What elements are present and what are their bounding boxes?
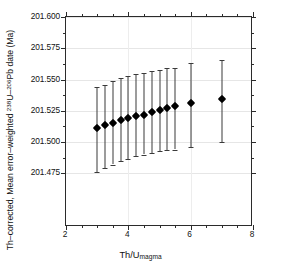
x-axis-tick-minor xyxy=(160,225,161,228)
x-tick-label: 2 xyxy=(63,229,68,239)
x-axis-tick-minor xyxy=(206,225,207,228)
error-bar-cap xyxy=(149,71,154,72)
figure-panel: Th–corrected, Mean error–weighted 238U–2… xyxy=(0,0,281,279)
y-axis-tick-minor xyxy=(251,126,254,127)
x-axis-tick-minor xyxy=(160,14,161,17)
x-axis-tick-major xyxy=(253,12,254,17)
x-axis-title-base: Th/U xyxy=(119,250,139,260)
y-axis-tick-minor xyxy=(251,64,254,65)
data-layer xyxy=(66,17,251,225)
x-tick-label: 8 xyxy=(250,229,255,239)
x-axis-tick-minor xyxy=(144,14,145,17)
x-axis-tick-minor xyxy=(144,225,145,228)
x-axis-title-sub: magma xyxy=(140,253,162,260)
error-bar-cap xyxy=(157,70,162,71)
y-axis-tick-major xyxy=(61,80,66,81)
y-axis-tick-major xyxy=(61,142,66,143)
error-bar-cap xyxy=(165,150,170,151)
x-axis-tick-minor xyxy=(222,14,223,17)
y-axis-tick-minor xyxy=(63,158,66,159)
x-axis-tick-minor xyxy=(82,14,83,17)
y-axis-tick-major xyxy=(251,80,256,81)
error-bar-cap xyxy=(188,63,193,64)
y-axis-tick-minor xyxy=(63,95,66,96)
error-bar-cap xyxy=(118,78,123,79)
data-point-marker xyxy=(218,95,226,103)
x-axis-tick-minor xyxy=(97,14,98,17)
x-axis-tick-minor xyxy=(97,225,98,228)
y-axis-tick-minor xyxy=(63,64,66,65)
x-axis-tick-minor xyxy=(175,225,176,228)
error-bar-cap xyxy=(165,68,170,69)
x-axis-title: Th/Umagma xyxy=(0,250,281,260)
data-point-marker xyxy=(171,102,179,110)
data-point-marker xyxy=(132,112,140,120)
x-tick-label: 6 xyxy=(187,229,192,239)
y-tick-label: 201.575 xyxy=(31,42,60,52)
y-axis-tick-major xyxy=(251,142,256,143)
y-axis-tick-minor xyxy=(63,126,66,127)
error-bar-cap xyxy=(134,74,139,75)
error-bar-cap xyxy=(110,81,115,82)
x-axis-tick-minor xyxy=(175,14,176,17)
x-tick-label-group: 2468 xyxy=(65,229,252,243)
x-axis-tick-minor xyxy=(237,14,238,17)
error-bar-cap xyxy=(95,172,100,173)
x-axis-tick-minor xyxy=(222,225,223,228)
y-axis-tick-major xyxy=(251,111,256,112)
error-bar-cap xyxy=(149,153,154,154)
y-axis-tick-major xyxy=(61,48,66,49)
y-axis-tick-minor xyxy=(251,33,254,34)
y-tick-label: 201.475 xyxy=(31,167,60,177)
x-axis-tick-minor xyxy=(113,225,114,228)
error-bar-cap xyxy=(219,142,224,143)
error-bar-cap xyxy=(110,165,115,166)
error-bar-cap xyxy=(173,150,178,151)
error-bar-cap xyxy=(126,76,131,77)
y-tick-label: 201.600 xyxy=(31,11,60,21)
data-point-marker xyxy=(147,108,155,116)
error-bar-cap xyxy=(173,68,178,69)
error-bar-cap xyxy=(126,159,131,160)
y-axis-tick-major xyxy=(251,173,256,174)
error-bar-cap xyxy=(134,156,139,157)
y-axis-tick-minor xyxy=(251,95,254,96)
y-axis-tick-major xyxy=(251,48,256,49)
x-axis-tick-major xyxy=(191,12,192,17)
y-axis-tick-minor xyxy=(63,33,66,34)
y-axis-tick-major xyxy=(61,111,66,112)
y-axis-tick-major xyxy=(251,17,256,18)
y-tick-label: 201.500 xyxy=(31,136,60,146)
error-bar-cap xyxy=(118,161,123,162)
error-bar-cap xyxy=(102,85,107,86)
y-tick-label: 201.550 xyxy=(31,74,60,84)
error-bar-cap xyxy=(188,147,193,148)
error-bar-cap xyxy=(141,155,146,156)
y-axis-tick-major xyxy=(61,173,66,174)
x-axis-tick-major xyxy=(66,12,67,17)
x-tick-label: 4 xyxy=(125,229,130,239)
x-axis-tick-minor xyxy=(206,14,207,17)
y-tick-label: 201.525 xyxy=(31,105,60,115)
x-axis-tick-major xyxy=(128,12,129,17)
y-axis-tick-major xyxy=(61,17,66,18)
error-bar-cap xyxy=(141,73,146,74)
error-bar-cap xyxy=(219,60,224,61)
x-axis-tick-minor xyxy=(237,225,238,228)
data-point-marker xyxy=(186,99,194,107)
x-axis-tick-minor xyxy=(113,14,114,17)
error-bar-cap xyxy=(102,168,107,169)
error-bar-cap xyxy=(95,87,100,88)
y-tick-label-group: 201.475201.500201.525201.550201.575201.6… xyxy=(0,16,60,226)
x-axis-tick-minor xyxy=(82,225,83,228)
plot-area xyxy=(65,16,252,226)
error-bar-cap xyxy=(157,151,162,152)
y-axis-tick-minor xyxy=(251,158,254,159)
